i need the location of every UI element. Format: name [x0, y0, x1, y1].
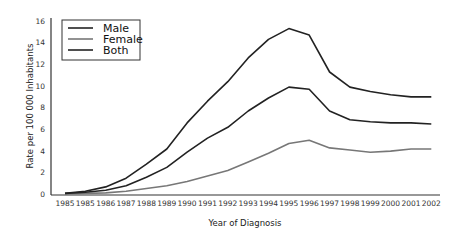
legend-label-both: Both [103, 44, 129, 57]
x-tick-label: 1994 [259, 199, 278, 208]
y-tick-label: 8 [40, 103, 45, 112]
x-tick-label: 1992 [218, 199, 237, 208]
x-tick-label: 1988 [137, 199, 156, 208]
y-tick-label: 2 [40, 168, 45, 177]
x-tick-label: 1995 [279, 199, 298, 208]
series-line-female [65, 140, 431, 194]
y-tick-label: 0 [40, 190, 45, 199]
y-tick-label: 6 [40, 125, 45, 134]
x-tick-label: 1986 [96, 199, 115, 208]
x-tick-label: 1985 [76, 199, 95, 208]
x-tick-label: 1989 [157, 199, 176, 208]
x-tick-label: 1996 [300, 199, 319, 208]
y-tick-label: 14 [35, 38, 45, 47]
y-axis-ticks: 0246810121416 [35, 17, 45, 200]
x-tick-label: 1993 [239, 199, 258, 208]
x-tick-label: 1997 [320, 199, 339, 208]
x-tick-label: 2002 [422, 199, 441, 208]
legend: MaleFemaleBoth [62, 20, 143, 60]
series-line-both [65, 87, 431, 193]
y-tick-label: 12 [35, 60, 45, 69]
x-tick-label: 1998 [340, 199, 359, 208]
x-axis-ticks: 1985198519861987198819891990199119921993… [55, 199, 441, 208]
x-tick-label: 2001 [401, 199, 420, 208]
x-tick-label: 1991 [198, 199, 217, 208]
y-tick-label: 4 [40, 147, 45, 156]
y-tick-label: 16 [35, 17, 45, 26]
y-axis-title: Rate per 100 000 Inhabitants [25, 43, 35, 168]
x-tick-label: 1985 [55, 199, 74, 208]
x-tick-label: 2000 [381, 199, 400, 208]
x-tick-label: 1999 [361, 199, 380, 208]
x-tick-label: 1990 [178, 199, 197, 208]
x-tick-label: 1987 [117, 199, 136, 208]
x-axis-title: Year of Diagnosis [208, 218, 282, 228]
y-tick-label: 10 [35, 82, 45, 91]
line-chart: 0246810121416 19851985198619871988198919… [0, 0, 466, 237]
